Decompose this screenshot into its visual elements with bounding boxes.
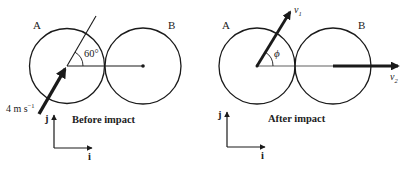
speed-label: 4 m s−1 [6, 102, 35, 114]
collision-diagram: 60° 4 m s−1 A B Before impact j i v1 ϕ [0, 0, 404, 169]
v1-label: v1 [294, 4, 302, 17]
angle-arc-phi [266, 52, 274, 66]
angle-label-60: 60° [84, 48, 99, 59]
ball-a-label-before: A [33, 19, 41, 31]
axes-after: j i [217, 109, 265, 161]
caption-after: After impact [268, 113, 326, 124]
axis-i-label-after: i [261, 150, 264, 161]
before-impact-panel: 60° 4 m s−1 A B Before impact j i [6, 16, 181, 162]
ball-b-label-before: B [168, 19, 175, 31]
caption-before: Before impact [72, 114, 136, 125]
angle-arc-60 [75, 52, 83, 66]
ball-b-label-after: B [358, 19, 365, 31]
ball-a-label-after: A [222, 19, 230, 31]
axis-i-label-before: i [88, 151, 91, 162]
v2-label: v2 [390, 71, 398, 84]
angle-label-phi: ϕ [274, 47, 280, 59]
after-impact-panel: v1 ϕ v2 A B After impact j i [217, 4, 398, 161]
axis-j-label-before: j [44, 113, 49, 124]
centre-dot-b [141, 64, 145, 68]
velocity-arrow-4ms [39, 69, 65, 114]
axis-j-label-after: j [217, 109, 222, 120]
